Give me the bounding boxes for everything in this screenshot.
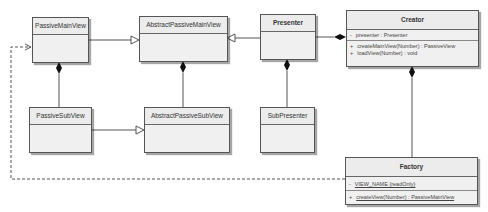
class-name: PassiveMainView (33, 18, 88, 35)
visibility-marker: + (350, 50, 353, 56)
class-passive-sub-view[interactable]: PassiveSubView (29, 107, 92, 153)
class-passive-main-view[interactable]: PassiveMainView (32, 17, 89, 63)
class-presenter[interactable]: Presenter (260, 14, 316, 60)
filled-diamond-icon (409, 66, 415, 78)
class-name: Factory (346, 158, 477, 177)
class-name: SubPresenter (261, 108, 314, 125)
filled-diamond-icon (56, 62, 62, 74)
attributes-section: -VIEW_NAME {readOnly} (346, 177, 477, 191)
operation-text: createMainView(Number) : PassiveView (357, 43, 455, 49)
hollow-triangle-icon (227, 34, 235, 42)
operation-text: createView(Number) : PassiveMainView (356, 194, 454, 200)
attribute-row: -presenter : Presenter (350, 32, 475, 39)
visibility-marker: - (349, 181, 351, 187)
operation-text: loadView(Number) : void (357, 50, 417, 56)
visibility-marker: + (350, 43, 353, 49)
class-name: AbstractPassiveSubView (145, 108, 229, 125)
class-name: Creator (347, 11, 478, 30)
attribute-text: VIEW_NAME {readOnly} (355, 181, 416, 187)
operation-row: +loadView(Number) : void (350, 50, 475, 57)
class-abstract-passive-main-view[interactable]: AbstractPassiveMainView (139, 16, 228, 62)
class-name: Presenter (261, 15, 315, 32)
filled-diamond-icon (180, 61, 186, 73)
hollow-triangle-icon (131, 36, 139, 44)
operations-section: +createMainView(Number) : PassiveView +l… (347, 41, 478, 59)
class-name: AbstractPassiveMainView (140, 17, 227, 34)
attribute-row: -VIEW_NAME {readOnly} (349, 181, 474, 188)
visibility-marker: + (349, 194, 352, 200)
operations-section: +createView(Number) : PassiveMainView (346, 191, 477, 203)
filled-diamond-icon (334, 34, 346, 40)
operation-row: +createMainView(Number) : PassiveView (350, 43, 475, 50)
class-abstract-passive-sub-view[interactable]: AbstractPassiveSubView (144, 107, 230, 153)
operation-row: +createView(Number) : PassiveMainView (349, 194, 474, 201)
class-name: PassiveSubView (30, 108, 91, 125)
filled-diamond-icon (284, 59, 290, 71)
attributes-section: -presenter : Presenter (347, 30, 478, 41)
visibility-marker: - (350, 32, 352, 38)
class-creator[interactable]: Creator -presenter : Presenter +createMa… (346, 10, 479, 67)
attribute-text: presenter : Presenter (356, 32, 408, 38)
class-sub-presenter[interactable]: SubPresenter (260, 107, 315, 153)
class-factory[interactable]: Factory -VIEW_NAME {readOnly} +createVie… (345, 157, 478, 205)
hollow-triangle-icon (136, 126, 144, 134)
